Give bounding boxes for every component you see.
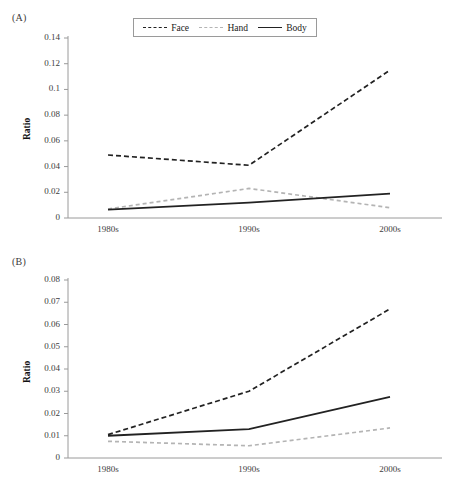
y-axis-tick-label: 0.08 xyxy=(18,109,60,119)
x-axis-tick-label: 1980s xyxy=(78,464,138,474)
panel-a-plot-area xyxy=(0,0,462,248)
y-axis-tick-label: 0.04 xyxy=(18,363,60,373)
series-line-hand xyxy=(108,188,390,209)
chart-panel-b: (B) Ratio 00.010.020.030.040.050.060.070… xyxy=(0,248,462,492)
chart-panel-a: (A) Face Hand Body Ratio 00.020.040.060.… xyxy=(0,0,462,248)
y-axis-tick-label: 0.06 xyxy=(18,135,60,145)
x-axis-tick-label: 2000s xyxy=(360,224,420,234)
series-line-face xyxy=(108,70,390,165)
y-axis-tick-label: 0.01 xyxy=(18,430,60,440)
y-axis-tick-label: 0.08 xyxy=(18,274,60,284)
y-axis-tick-label: 0.1 xyxy=(18,83,60,93)
series-line-body xyxy=(108,397,390,436)
y-axis-tick-label: 0.03 xyxy=(18,385,60,395)
y-axis-tick-label: 0.07 xyxy=(18,296,60,306)
y-axis-tick-label: 0.05 xyxy=(18,341,60,351)
series-line-hand xyxy=(108,428,390,446)
y-axis-tick-label: 0.02 xyxy=(18,408,60,418)
figure-container: (A) Face Hand Body Ratio 00.020.040.060.… xyxy=(0,0,462,492)
x-axis-tick-label: 1990s xyxy=(219,224,279,234)
x-axis-tick-label: 1990s xyxy=(219,464,279,474)
y-axis-tick-label: 0.04 xyxy=(18,161,60,171)
y-axis-tick-label: 0.06 xyxy=(18,319,60,329)
panel-b-plot-area xyxy=(0,248,462,492)
y-axis-tick-label: 0.02 xyxy=(18,186,60,196)
x-axis-tick-label: 2000s xyxy=(360,464,420,474)
y-axis-tick-label: 0.12 xyxy=(18,58,60,68)
y-axis-tick-label: 0.14 xyxy=(18,32,60,42)
y-axis-tick-label: 0 xyxy=(18,212,60,222)
y-axis-tick-label: 0 xyxy=(18,452,60,462)
x-axis-tick-label: 1980s xyxy=(78,224,138,234)
series-line-face xyxy=(108,309,390,435)
series-line-body xyxy=(108,194,390,210)
